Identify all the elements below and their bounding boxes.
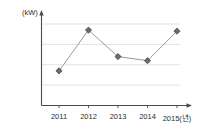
line-chart: (kW) 010,00020,00030,00040,000 201120122…	[0, 0, 199, 132]
x-axis-tick-labels: 20112012201320142015(년)	[0, 0, 199, 132]
x-axis-tick-label: 2012	[80, 112, 97, 121]
x-axis-tick-label: 2011	[51, 112, 67, 121]
x-axis-tick-label: 2013	[110, 112, 127, 121]
x-axis-tick-label: 2014	[139, 112, 156, 121]
x-axis-tick-label: 2015(년)	[163, 112, 192, 123]
